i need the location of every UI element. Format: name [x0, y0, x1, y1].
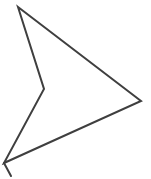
sketch-canvas [0, 0, 151, 179]
arrow-outline-path [4, 7, 141, 163]
arrow-sketch-svg [0, 0, 151, 179]
tail-stroke-path [4, 163, 11, 176]
